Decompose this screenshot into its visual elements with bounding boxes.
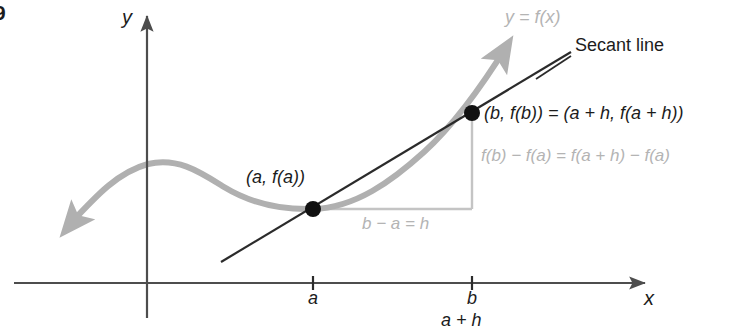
- curve-left-arrow-tail: [66, 218, 76, 230]
- x-axis-label: x: [644, 288, 654, 308]
- function-curve-label: y = f(x): [505, 8, 561, 26]
- secant-label-leader: [536, 56, 571, 79]
- figure-number: 9: [0, 2, 5, 23]
- rise-expression-label: f(b) − f(a) = f(a + h) − f(a): [481, 147, 670, 164]
- tick-label-a: a: [308, 289, 318, 307]
- run-expression-label: b − a = h: [362, 215, 429, 232]
- point-marker-b: [464, 105, 480, 121]
- y-axis-label: y: [122, 7, 132, 27]
- secant-line-figure: 9 y x y = f(x) Secant line (a, f(a)) (b,…: [0, 0, 755, 330]
- tick-label-a-plus-h: a + h: [441, 311, 482, 329]
- point-b-label: (b, f(b)) = (a + h, f(a + h)): [484, 104, 684, 122]
- function-curve: [70, 44, 508, 224]
- point-a-label: (a, f(a)): [246, 168, 305, 186]
- point-marker-a: [305, 201, 321, 217]
- tick-label-b: b: [467, 289, 477, 307]
- secant-line-label: Secant line: [575, 36, 664, 54]
